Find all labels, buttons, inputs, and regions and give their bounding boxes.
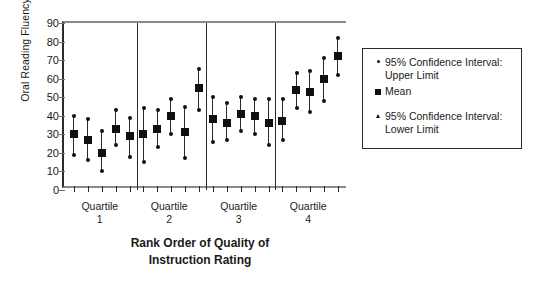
y-tick-label: 80	[47, 36, 59, 48]
quartile-caption: Quartile3	[199, 200, 279, 226]
dot-icon	[371, 56, 385, 63]
x-tick-mark	[282, 186, 283, 192]
legend-spacer	[371, 101, 513, 110]
x-tick-mark	[338, 186, 339, 192]
x-tick-mark	[185, 186, 186, 192]
lower-limit-marker	[156, 145, 160, 149]
quartile-divider	[137, 23, 138, 190]
lower-limit-marker	[281, 138, 285, 142]
lower-limit-marker	[86, 158, 90, 162]
upper-limit-marker	[197, 67, 201, 71]
x-tick-mark	[102, 186, 103, 192]
upper-limit-marker	[156, 108, 160, 112]
mean-marker	[98, 149, 106, 157]
x-tick-mark	[255, 186, 256, 192]
legend-label-upper-limit: 95% Confidence Interval: Upper Limit	[385, 56, 513, 82]
x-axis-title-line1: Rank Order of Quality of	[40, 235, 360, 252]
x-tick-mark	[74, 186, 75, 192]
lower-limit-marker	[253, 132, 257, 136]
y-tick-mark	[59, 190, 65, 191]
upper-limit-marker	[336, 36, 340, 40]
quartile-caption-label: Quartile	[60, 200, 140, 213]
mean-marker	[292, 86, 300, 94]
lower-limit-marker	[114, 143, 118, 147]
quartile-caption: Quartile1	[60, 200, 140, 226]
y-tick-label: 90	[47, 17, 59, 29]
quartile-caption-number: 3	[199, 213, 279, 226]
lower-limit-marker	[169, 132, 173, 136]
lower-limit-marker	[72, 153, 76, 157]
x-tick-mark	[241, 186, 242, 192]
mean-marker	[278, 117, 286, 125]
x-tick-mark	[116, 186, 117, 192]
lower-limit-marker	[211, 140, 215, 144]
mean-marker	[320, 75, 328, 83]
upper-limit-marker	[128, 116, 132, 120]
mean-marker	[181, 128, 189, 136]
y-tick-mark	[59, 60, 65, 61]
y-axis-title: Oral Reading Fluency	[19, 0, 39, 135]
y-tick-mark	[59, 42, 65, 43]
mean-marker	[112, 125, 120, 133]
lower-limit-marker	[336, 73, 340, 77]
y-tick-mark	[59, 79, 65, 80]
y-tick-label: 0	[53, 184, 59, 196]
upper-limit-marker	[114, 108, 118, 112]
upper-limit-marker	[281, 97, 285, 101]
mean-marker	[209, 115, 217, 123]
mean-marker	[306, 88, 314, 96]
lower-limit-marker	[295, 106, 299, 110]
legend-label-lower-limit: 95% Confidence Interval: Lower Limit	[385, 110, 513, 136]
mean-marker	[223, 119, 231, 127]
mean-marker	[126, 132, 134, 140]
mean-marker	[265, 119, 273, 127]
quartile-caption-number: 1	[60, 213, 140, 226]
x-tick-mark	[310, 186, 311, 192]
upper-limit-marker	[183, 105, 187, 109]
triangle-icon	[371, 110, 385, 118]
legend-item-lower-limit: 95% Confidence Interval: Lower Limit	[371, 110, 513, 136]
y-tick-mark	[59, 23, 65, 24]
y-tick-label: 30	[47, 128, 59, 140]
upper-limit-marker	[239, 95, 243, 99]
quartile-caption-label: Quartile	[129, 200, 209, 213]
quartile-caption: Quartile4	[268, 200, 348, 226]
x-tick-mark	[143, 186, 144, 192]
y-tick-mark	[59, 171, 65, 172]
x-tick-mark	[296, 186, 297, 192]
lower-limit-marker	[183, 156, 187, 160]
y-tick-label: 70	[47, 54, 59, 66]
quartile-caption-label: Quartile	[268, 200, 348, 213]
mean-marker	[139, 130, 147, 138]
x-tick-mark	[171, 186, 172, 192]
upper-limit-marker	[308, 69, 312, 73]
lower-limit-marker	[142, 160, 146, 164]
legend: 95% Confidence Interval: Upper Limit Mea…	[362, 48, 522, 149]
x-axis-title: Rank Order of Quality of Instruction Rat…	[40, 235, 360, 269]
x-tick-mark	[227, 186, 228, 192]
quartile-divider	[206, 23, 207, 190]
y-tick-mark	[59, 153, 65, 154]
upper-limit-marker	[267, 97, 271, 101]
lower-limit-marker	[197, 108, 201, 112]
y-tick-label: 40	[47, 110, 59, 122]
mean-marker	[153, 125, 161, 133]
y-tick-mark	[59, 116, 65, 117]
mean-marker	[70, 130, 78, 138]
mean-marker	[334, 52, 342, 60]
quartile-caption-number: 2	[129, 213, 209, 226]
y-tick-label: 10	[47, 165, 59, 177]
chart-figure: Oral Reading Fluency 0102030405060708090…	[0, 0, 534, 281]
x-axis-title-line2: Instruction Rating	[40, 252, 360, 269]
quartile-caption: Quartile2	[129, 200, 209, 226]
x-tick-mark	[88, 186, 89, 192]
mean-marker	[195, 84, 203, 92]
upper-limit-marker	[295, 71, 299, 75]
upper-limit-marker	[86, 117, 90, 121]
y-tick-mark	[59, 97, 65, 98]
upper-limit-marker	[225, 101, 229, 105]
x-tick-mark	[130, 186, 131, 192]
mean-marker	[84, 136, 92, 144]
upper-limit-marker	[100, 129, 104, 133]
quartile-divider	[275, 23, 276, 190]
